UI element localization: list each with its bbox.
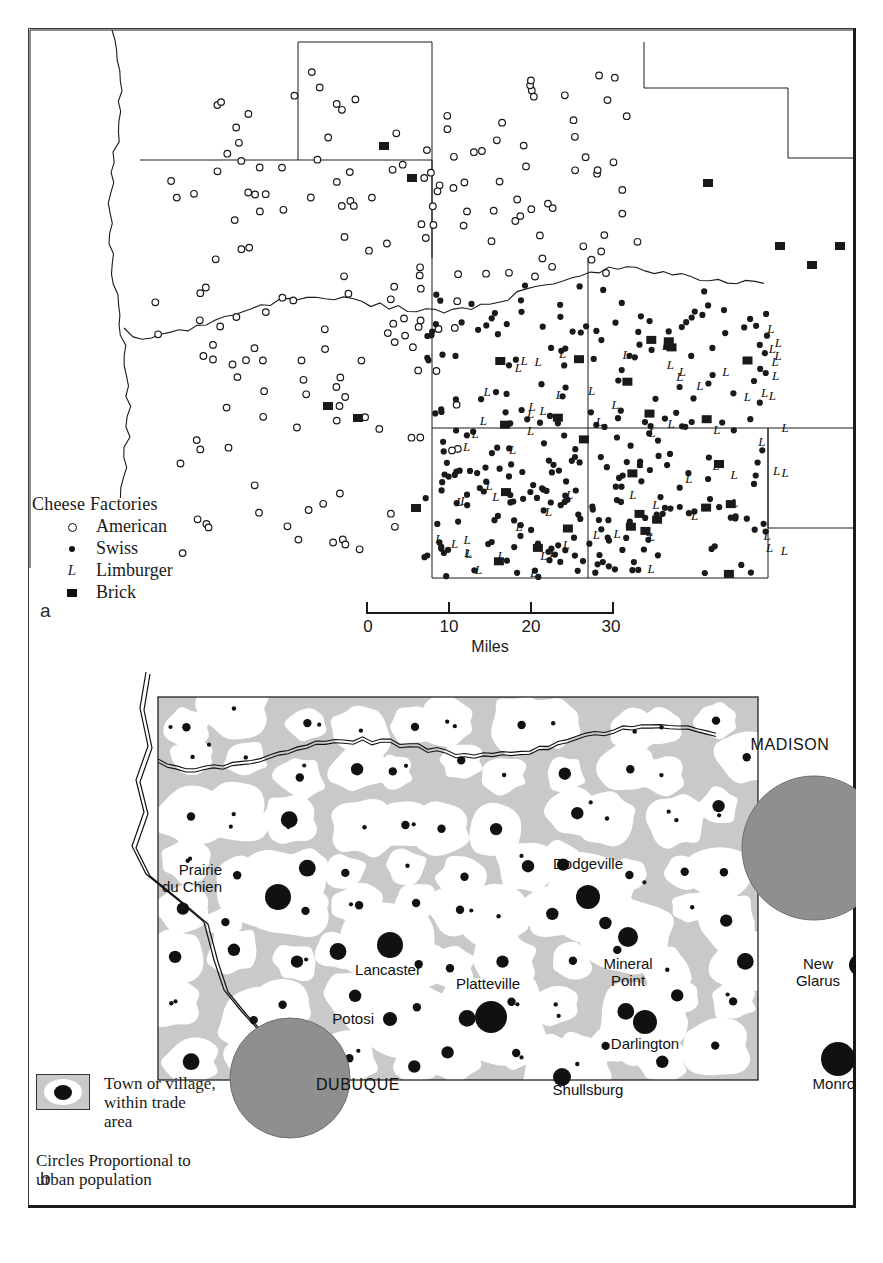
svg-text:L: L (515, 519, 523, 534)
svg-text:L: L (690, 508, 698, 523)
town-dot (618, 927, 638, 947)
scale-units: Miles (366, 638, 614, 656)
scale-bar: 0 10 20 30 Miles (366, 600, 614, 656)
svg-text:L: L (666, 357, 674, 372)
svg-text:L: L (666, 416, 674, 431)
svg-text:L: L (646, 561, 654, 576)
svg-text:L: L (772, 463, 780, 478)
svg-text:L: L (463, 545, 471, 560)
legend-line: Town or village, (104, 1074, 216, 1093)
svg-text:L: L (555, 387, 563, 402)
legend-item-brick: Brick (48, 581, 262, 603)
legend-item-american: American (48, 515, 262, 537)
legend-label: Swiss (96, 538, 138, 559)
town-dot (633, 1010, 657, 1034)
svg-text:L: L (743, 389, 751, 404)
svg-text:L: L (479, 413, 487, 428)
town-label: Platteville (456, 975, 520, 992)
letter-l-icon: L (48, 563, 96, 578)
svg-text:L: L (470, 426, 478, 441)
legend-item-limburger: L Limburger (48, 559, 262, 581)
legend-label: Limburger (96, 560, 173, 581)
town-dot (576, 885, 600, 909)
svg-text:L: L (474, 562, 482, 577)
svg-text:L: L (635, 456, 643, 471)
legend-label: Brick (96, 582, 136, 603)
town-dot (475, 1001, 507, 1033)
town-label: Darlington (611, 1035, 679, 1052)
svg-text:L: L (678, 364, 686, 379)
svg-text:L: L (695, 378, 703, 393)
svg-text:L: L (544, 504, 552, 519)
svg-text:L: L (529, 565, 537, 580)
svg-text:L: L (613, 526, 621, 541)
svg-text:L: L (651, 497, 659, 512)
svg-text:L: L (765, 540, 773, 555)
legend-line: area (104, 1112, 216, 1131)
svg-text:L: L (595, 414, 603, 429)
city-label: DUBUQUE (316, 1076, 400, 1093)
svg-text:L: L (592, 527, 600, 542)
svg-text:L: L (558, 346, 566, 361)
svg-text:L: L (730, 467, 738, 482)
svg-text:L: L (768, 388, 776, 403)
svg-text:L: L (610, 397, 618, 412)
town-dot (377, 932, 403, 958)
city-label: MADISON (751, 736, 830, 753)
svg-text:L: L (721, 364, 729, 379)
legend-label: American (96, 516, 167, 537)
town-dot (265, 884, 291, 910)
svg-text:L: L (508, 442, 516, 457)
svg-text:L: L (780, 543, 788, 558)
town-dot (849, 954, 856, 976)
scale-tick-labels: 0 10 20 30 (366, 616, 614, 636)
svg-text:L: L (757, 434, 765, 449)
svg-text:L: L (549, 545, 557, 560)
scale-tick: 10 (440, 617, 459, 637)
figure-root: LLLLLLLLLLLLLLLLLLLLLLLLLLLLLLLLLLLLLLLL… (0, 0, 883, 1263)
panel-b-legend: Town or village, within trade area Circl… (36, 1072, 286, 1189)
legend-town-text: Town or village, within trade area (104, 1072, 216, 1131)
svg-text:L: L (533, 354, 541, 369)
legend-proportional-note: Circles Proportional to urban population (36, 1151, 286, 1189)
svg-text:L: L (455, 494, 463, 509)
svg-text:L: L (450, 536, 458, 551)
svg-text:L: L (526, 423, 534, 438)
svg-text:L: L (766, 321, 774, 336)
svg-text:L: L (780, 465, 788, 480)
town-label: Lancaster (355, 961, 421, 978)
legend-item-swiss: Swiss (48, 537, 262, 559)
svg-text:L: L (684, 471, 692, 486)
legend-title: Cheese Factories (32, 494, 262, 515)
svg-text:L: L (712, 422, 720, 437)
svg-text:L: L (587, 383, 595, 398)
panel-b-label: b (40, 1168, 51, 1190)
svg-text:L: L (434, 531, 442, 546)
town-dot (383, 1012, 397, 1026)
svg-text:L: L (628, 487, 636, 502)
open-circle-icon (48, 519, 96, 534)
scale-tick: 20 (522, 617, 541, 637)
legend-line: Circles Proportional to (36, 1151, 286, 1170)
legend-town-row: Town or village, within trade area (36, 1072, 286, 1131)
legend-line: within trade (104, 1093, 216, 1112)
town-label: Dodgeville (553, 855, 623, 872)
panel-a-label: a (40, 600, 51, 622)
svg-text:L: L (526, 406, 534, 421)
svg-text:L: L (462, 439, 470, 454)
town-label: Monroe (813, 1075, 856, 1092)
scale-bar-line (366, 600, 614, 616)
svg-text:L: L (538, 403, 546, 418)
svg-text:L: L (562, 537, 570, 552)
town-label: Shullsburg (553, 1081, 624, 1098)
filled-dot-icon (48, 541, 96, 556)
town-label: NewGlarus (796, 955, 840, 989)
svg-text:L: L (621, 347, 629, 362)
svg-text:L: L (768, 341, 776, 356)
town-label: Potosi (332, 1010, 374, 1027)
svg-text:L: L (771, 368, 779, 383)
svg-text:L: L (485, 478, 493, 493)
panel-a-legend: Cheese Factories American Swiss L Limbur… (32, 494, 262, 603)
scale-tick: 30 (602, 617, 621, 637)
scale-tick: 0 (363, 617, 372, 637)
